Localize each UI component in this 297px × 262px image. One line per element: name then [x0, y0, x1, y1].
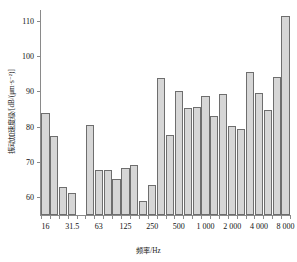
- bar: [157, 78, 165, 215]
- y-axis-label: 振动加速度级/[dB/(μm·s⁻²)]: [9, 27, 16, 197]
- x-axis-tick: [254, 215, 255, 219]
- bar: [193, 107, 201, 215]
- bar: [130, 165, 138, 215]
- x-axis-tick: [210, 215, 211, 219]
- x-axis-tick: [290, 215, 291, 219]
- x-axis-tick: [192, 215, 193, 219]
- x-axis-tick: [112, 215, 113, 219]
- x-axis-tick: [246, 215, 247, 219]
- y-axis-tick: 110: [37, 21, 41, 22]
- bar: [281, 16, 289, 215]
- x-axis-tick: [41, 215, 42, 219]
- x-axis-tick: [219, 215, 220, 219]
- x-axis-tick: [130, 215, 131, 219]
- x-axis-tick-label: 250: [146, 222, 158, 231]
- y-axis-tick-label: 110: [22, 17, 34, 26]
- x-axis-tick: [166, 215, 167, 219]
- y-axis-tick-label: 70: [26, 158, 34, 167]
- y-axis-tick-label: 100: [22, 52, 34, 61]
- x-axis-tick-label: 125: [119, 222, 131, 231]
- x-axis-tick: [148, 215, 149, 219]
- x-axis-tick: [85, 215, 86, 219]
- x-axis-tick: [272, 215, 273, 219]
- x-axis-tick-label: 63: [95, 222, 103, 231]
- bar: [175, 91, 183, 215]
- bar: [68, 193, 76, 215]
- y-axis-tick-label: 80: [26, 123, 34, 132]
- bar: [50, 136, 58, 215]
- x-axis-tick: [201, 215, 202, 219]
- bar: [201, 96, 209, 215]
- bar: [219, 94, 227, 215]
- bar: [139, 201, 147, 215]
- x-axis-tick: [263, 215, 264, 219]
- x-axis-tick: [59, 215, 60, 219]
- x-axis-tick: [121, 215, 122, 219]
- bar: [112, 179, 120, 215]
- x-axis-tick-label: 8 000: [277, 222, 295, 231]
- bar: [273, 77, 281, 215]
- x-axis-tick: [103, 215, 104, 219]
- bar: [264, 110, 272, 215]
- x-axis-tick: [94, 215, 95, 219]
- x-axis-tick: [183, 215, 184, 219]
- bar: [184, 108, 192, 215]
- bar: [59, 187, 67, 215]
- x-axis-tick-label: 500: [173, 222, 185, 231]
- y-axis-tick-label: 90: [26, 87, 34, 96]
- x-axis-tick: [50, 215, 51, 219]
- bar: [237, 129, 245, 215]
- y-axis-tick: 100: [37, 56, 41, 57]
- bar: [246, 72, 254, 215]
- bar: [95, 170, 103, 215]
- bar: [121, 168, 129, 215]
- x-axis-tick: [228, 215, 229, 219]
- x-axis-tick: [157, 215, 158, 219]
- x-axis-tick-label: 4 000: [250, 222, 268, 231]
- x-axis-tick: [237, 215, 238, 219]
- bar: [41, 113, 49, 215]
- x-axis-tick: [281, 215, 282, 219]
- x-axis-label: 频率/Hz: [0, 245, 297, 255]
- y-axis-tick: 90: [37, 91, 41, 92]
- y-axis-tick-label: 60: [26, 193, 34, 202]
- bar: [210, 116, 218, 215]
- x-axis-tick: [139, 215, 140, 219]
- bar: [86, 125, 94, 215]
- bar: [255, 93, 263, 215]
- plot-area: 607080901001101631.5631252505001 0002 00…: [40, 10, 290, 216]
- bar: [104, 170, 112, 215]
- x-axis-tick-label: 16: [41, 222, 49, 231]
- bar: [228, 126, 236, 215]
- x-axis-tick-label: 31.5: [65, 222, 79, 231]
- x-axis-tick-label: 1 000: [197, 222, 215, 231]
- x-axis-tick: [77, 215, 78, 219]
- bar: [166, 135, 174, 215]
- vibration-acceleration-bar-chart: 振动加速度级/[dB/(μm·s⁻²)] 607080901001101631.…: [0, 0, 297, 262]
- x-axis-tick: [174, 215, 175, 219]
- x-axis-tick: [68, 215, 69, 219]
- x-axis-tick-label: 2 000: [223, 222, 241, 231]
- bar: [148, 185, 156, 215]
